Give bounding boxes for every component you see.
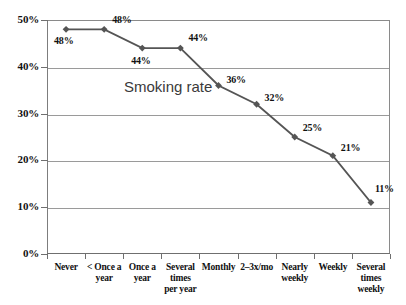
data-point-value-label: 48% (54, 35, 73, 46)
series-annotation-label: Smoking rate (124, 78, 212, 95)
y-axis-tick-label: 30% (1, 107, 39, 119)
x-axis-label-line: year (134, 273, 151, 283)
y-axis-tick (41, 160, 48, 161)
x-axis-label-line: Nearly (282, 262, 308, 272)
x-axis-label-line: Several (357, 262, 386, 272)
x-axis-tick (314, 254, 315, 259)
gridline (48, 161, 389, 162)
data-point-value-label: 44% (188, 32, 207, 43)
x-axis-category-label: Weekly (314, 262, 352, 273)
x-axis-tick (85, 254, 86, 259)
x-axis-tick (161, 254, 162, 259)
y-axis-line (47, 20, 48, 254)
x-axis-tick (390, 254, 391, 259)
x-axis-line (47, 253, 390, 254)
x-axis-category-label: Severaltimesper year (161, 262, 199, 295)
gridline (48, 68, 389, 69)
x-axis-label-line: times (170, 273, 191, 283)
y-axis-tick (41, 20, 48, 21)
x-axis-label-line: times (361, 273, 382, 283)
x-axis-label-line: Several (166, 262, 195, 272)
y-axis-tick-label: 40% (1, 60, 39, 72)
data-point-value-label: 36% (227, 74, 246, 85)
data-point-value-label: 25% (303, 122, 322, 133)
x-axis-category-label: Once ayear (123, 262, 161, 284)
x-axis-label-line: weekly (358, 284, 385, 294)
x-axis-category-label: Nearlyweekly (276, 262, 314, 284)
data-point-value-label: 32% (265, 92, 284, 103)
y-axis-tick-label: 50% (1, 13, 39, 25)
y-axis-tick (41, 114, 48, 115)
x-axis-tick (238, 254, 239, 259)
x-axis-label-line: weekly (281, 273, 308, 283)
gridline (48, 115, 389, 116)
x-axis-label-line: Weekly (318, 262, 347, 272)
y-axis-labels: 50%40%30%20%10%0% (0, 0, 39, 305)
y-axis-tick (41, 67, 48, 68)
data-point-value-label: 21% (341, 142, 360, 153)
x-axis-tick (123, 254, 124, 259)
data-point-value-label: 48% (112, 14, 131, 25)
data-point-value-label: 11% (375, 183, 394, 194)
gridline (48, 208, 389, 209)
x-axis-tick (352, 254, 353, 259)
x-axis-category-label: Never (47, 262, 85, 273)
x-axis-label-line: Never (54, 262, 77, 272)
x-axis-label-line: Monthly (202, 262, 235, 272)
x-axis-label-line: per year (164, 284, 196, 294)
x-axis-label-line: Once a (129, 262, 156, 272)
chart-page: 50%40%30%20%10%0% 48%48%44%44%36%32%25%2… (0, 0, 406, 305)
x-axis-category-label: Severaltimesweekly (352, 262, 390, 295)
x-axis-category-label: 2–3x/mo (238, 262, 276, 273)
y-axis-tick (41, 207, 48, 208)
y-axis-tick-label: 20% (1, 153, 39, 165)
x-axis-category-label: Monthly (199, 262, 237, 273)
x-axis-label-line: 2–3x/mo (240, 262, 273, 272)
x-axis-tick (47, 254, 48, 259)
x-axis-category-label: < Once ayear (85, 262, 123, 284)
x-axis-label-line: < Once a (87, 262, 121, 272)
x-axis-tick (276, 254, 277, 259)
plot-area (47, 20, 390, 254)
x-axis-label-line: year (96, 273, 113, 283)
data-point-value-label: 44% (131, 55, 150, 66)
y-axis-tick-label: 10% (1, 200, 39, 212)
y-axis-tick-label: 0% (1, 247, 39, 259)
x-axis-tick (199, 254, 200, 259)
